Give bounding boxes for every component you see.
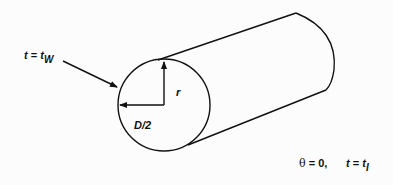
cylinder-diagram: t = tW r D/2 θ = 0, t = tI <box>0 0 393 185</box>
radius-arrows <box>120 62 164 105</box>
initial-temperature-label: t = tI <box>346 157 369 173</box>
wall-pointer-arrow <box>63 61 117 87</box>
back-face-arc <box>296 13 334 90</box>
radius-label: r <box>176 86 181 98</box>
initial-condition-label: θ = 0, <box>299 157 327 170</box>
top-side-line <box>158 13 296 60</box>
wall-temperature-label: t = tW <box>24 49 55 65</box>
half-diameter-label: D/2 <box>134 119 151 131</box>
